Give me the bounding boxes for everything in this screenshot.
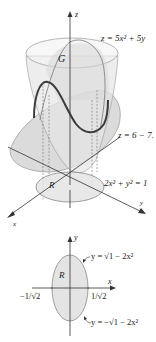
x-axis-2d-arrow — [110, 286, 116, 291]
y-axis-2d-arrow — [68, 236, 73, 242]
left-intercept-label: −1/√2 — [20, 291, 40, 301]
x-axis-2d-label: x — [107, 277, 112, 286]
figure-2d: y x R y = √1 − 2x² y = −√1 − 2x² −1/√2 1… — [20, 233, 139, 336]
right-intercept-point — [87, 287, 89, 289]
z-axis-arrow — [68, 11, 73, 17]
left-intercept-point — [51, 287, 53, 289]
diagram-canvas: z x y z = 5x² + 5y G z = 6 − 7. R 2x² + … — [0, 0, 156, 342]
y-axis-label: y — [139, 199, 144, 207]
lower-curve-label: y = −√1 − 2x² — [91, 317, 139, 327]
region-r-2d-label: R — [58, 270, 65, 280]
region-r-3d-label: R — [48, 180, 55, 190]
surface-bottom-label: z = 6 − 7. — [117, 130, 154, 140]
x-axis-label: x — [12, 220, 17, 228]
z-axis-label: z — [74, 10, 79, 19]
lower-leader-arrow — [84, 316, 87, 320]
upper-curve-label: y = √1 − 2x² — [91, 251, 134, 261]
figure-3d: z x y z = 5x² + 5y G z = 6 − 7. R 2x² + … — [7, 10, 154, 228]
upper-leader-arrow — [83, 259, 86, 263]
right-intercept-label: 1/√2 — [91, 291, 107, 301]
solid-g-label: G — [58, 53, 65, 64]
y-axis-2d-label: y — [73, 233, 78, 242]
surface-top-label: z = 5x² + 5y — [100, 33, 145, 43]
region-boundary-label: 2x² + y² = 1 — [104, 178, 148, 188]
